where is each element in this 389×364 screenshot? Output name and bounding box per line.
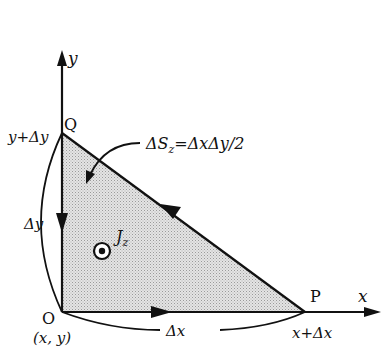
y-axis-label: y: [67, 48, 78, 68]
current-out-of-page-icon: [94, 243, 110, 259]
triangle-loop-diagram: y x Q y+Δy O (x, y) P x+Δx Δy Δx ΔSz=ΔxΔ…: [0, 0, 389, 364]
dy-dimension-arc: [41, 133, 62, 312]
point-o-coord-label: (x, y): [33, 329, 71, 347]
dx-label: Δx: [165, 322, 186, 340]
x-axis-label: x: [358, 286, 368, 306]
point-q-label: Q: [64, 115, 77, 134]
point-p-coord-label: x+Δx: [292, 324, 333, 342]
dy-label: Δy: [23, 215, 44, 233]
point-q-coord-label: y+Δy: [7, 128, 49, 146]
area-label: ΔSz=ΔxΔy/2: [145, 134, 244, 156]
point-p-label: P: [310, 287, 321, 306]
point-o-label: O: [42, 309, 55, 328]
y-axis-arrow-icon: [57, 50, 67, 66]
x-axis-arrow-icon: [364, 307, 381, 317]
